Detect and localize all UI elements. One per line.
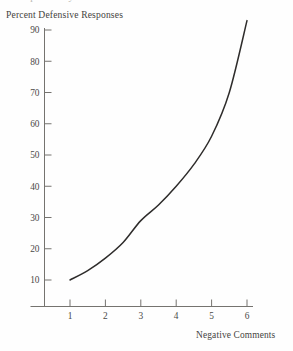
y-axis-tick-label: 50 — [30, 150, 40, 160]
y-axis-tick-label: 40 — [30, 182, 40, 192]
y-axis-ticks: 102030405060708090 — [30, 25, 51, 285]
x-axis-tick-label: 3 — [138, 311, 143, 321]
x-axis-tick-label: 1 — [68, 311, 73, 321]
y-axis-tick-label: 90 — [30, 25, 40, 35]
y-axis-tick-label: 80 — [30, 57, 40, 67]
y-axis-tick-label: 30 — [30, 213, 40, 223]
x-axis-tick-label: 4 — [174, 311, 179, 321]
x-axis-tick-label: 6 — [245, 311, 250, 321]
y-axis-tick-label: 60 — [30, 119, 40, 129]
x-axis-tick-label: 5 — [209, 311, 214, 321]
data-series-curve — [70, 21, 247, 280]
x-axis-ticks: 123456 — [68, 300, 250, 321]
y-axis-tick-label: 10 — [30, 275, 40, 285]
x-axis-tick-label: 2 — [103, 311, 108, 321]
y-axis-tick-label: 20 — [30, 244, 40, 254]
plot-area: 102030405060708090 123456 — [0, 0, 293, 351]
x-axis-title: Negative Comments — [196, 330, 275, 340]
y-axis-tick-label: 70 — [30, 88, 40, 98]
figure-chart: Responses by Se Percent Defensive Respon… — [0, 0, 293, 351]
